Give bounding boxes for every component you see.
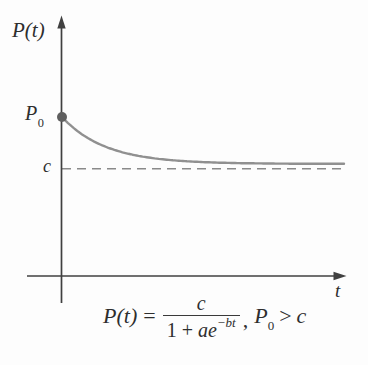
denominator-constant: 1 + [167, 319, 198, 341]
x-axis-label: t [335, 281, 340, 300]
equation-fraction: c 1 + ae−bt [163, 292, 240, 341]
condition-subscript: 0 [268, 318, 275, 333]
initial-value-label: P0 [25, 103, 43, 127]
denominator-exponent: −bt [217, 315, 236, 330]
denominator-variables: ae [198, 319, 217, 341]
y-axis-arrow [57, 16, 65, 29]
x-axis-arrow [334, 272, 347, 280]
fraction-denominator: 1 + ae−bt [163, 318, 240, 341]
condition-relation: > [279, 303, 291, 328]
figure-logistic-decay: P(t) P0 c t P(t) = c 1 + ae−bt , P0>c [0, 0, 368, 365]
y-axis-label: P(t) [12, 20, 45, 41]
equation-caption: P(t) = c 1 + ae−bt , P0>c [103, 292, 306, 341]
condition-base: P [254, 303, 267, 328]
asymptote-label: c [43, 157, 51, 175]
equation-lhs: P(t) [103, 303, 137, 329]
equation-comma: , [243, 307, 249, 333]
condition-rhs: c [297, 303, 307, 328]
initial-value-label-subscript: 0 [38, 116, 44, 130]
logistic-curve [62, 117, 344, 164]
equation-equals-sign: = [143, 303, 155, 329]
initial-value-label-base: P [25, 102, 37, 124]
initial-point-dot [57, 112, 67, 122]
equation-condition: P0>c [254, 303, 306, 332]
fraction-numerator: c [195, 292, 208, 315]
